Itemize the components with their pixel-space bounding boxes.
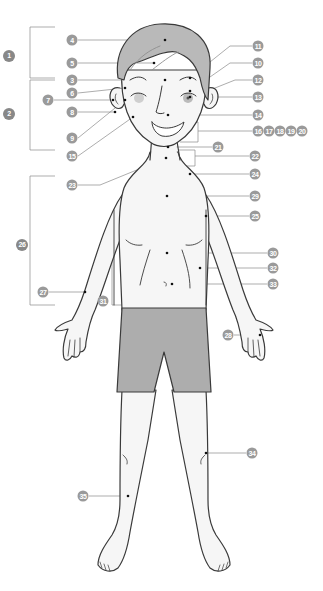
label-badge: 25 xyxy=(250,211,261,222)
label-badge: 29 xyxy=(250,191,261,202)
label-badge: 9 xyxy=(67,133,78,144)
label-badge: 4 xyxy=(67,35,78,46)
label-badge: 31 xyxy=(98,296,109,307)
label-badge: 12 xyxy=(253,75,264,86)
label-badge: 20 xyxy=(297,126,308,137)
label-badge: 16 xyxy=(253,126,264,137)
label-badge: 7 xyxy=(43,95,54,106)
label-badge: 30 xyxy=(268,248,279,259)
group-badge-face: 2 xyxy=(3,108,15,120)
label-badge: 23 xyxy=(67,180,78,191)
label-badge: 10 xyxy=(253,58,264,69)
label-badge: 28 xyxy=(223,330,234,341)
label-badge: 21 xyxy=(213,142,224,153)
label-badge: 14 xyxy=(253,110,264,121)
body-diagram xyxy=(0,0,323,591)
label-badge: 17 xyxy=(264,126,275,137)
label-badge: 19 xyxy=(286,126,297,137)
label-badge: 13 xyxy=(253,92,264,103)
group-badge-torso: 26 xyxy=(16,239,28,251)
label-badge: 3 xyxy=(67,75,78,86)
label-badge: 5 xyxy=(67,58,78,69)
label-badge: 34 xyxy=(247,448,258,459)
label-badge: 8 xyxy=(67,107,78,118)
label-badge: 18 xyxy=(275,126,286,137)
label-badge: 33 xyxy=(268,279,279,290)
label-badge: 6 xyxy=(67,88,78,99)
label-badge: 32 xyxy=(268,263,279,274)
group-badge-head: 1 xyxy=(3,50,15,62)
label-badge: 27 xyxy=(38,287,49,298)
body-figure xyxy=(55,24,273,571)
label-badge: 24 xyxy=(250,169,261,180)
label-badge: 22 xyxy=(250,151,261,162)
label-badge: 11 xyxy=(253,41,264,52)
label-badge: 35 xyxy=(78,491,89,502)
label-badge: 15 xyxy=(67,151,78,162)
